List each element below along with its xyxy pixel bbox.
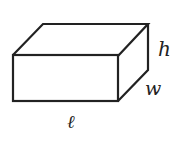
length-label: ℓ	[67, 111, 75, 132]
height-label: h	[158, 37, 171, 61]
front-face	[13, 55, 118, 101]
box-diagram: h w ℓ	[0, 0, 178, 142]
rectangular-prism-figure: h w ℓ	[0, 0, 178, 142]
width-label: w	[145, 77, 161, 99]
